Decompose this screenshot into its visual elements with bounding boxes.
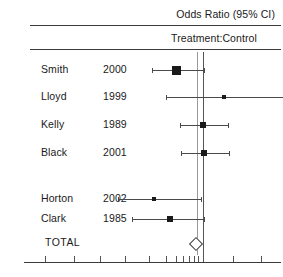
axis-tick bbox=[45, 256, 46, 262]
axis-tick bbox=[74, 256, 75, 262]
axis-tick bbox=[189, 256, 190, 262]
axis-tick bbox=[125, 256, 126, 262]
comparison-subtitle: Treatment:Control bbox=[171, 32, 257, 44]
study-name: Kelly bbox=[41, 118, 64, 130]
study-year: 1985 bbox=[103, 212, 127, 224]
forest-plot: Odds Ratio (95% CI) Treatment:Control Sm… bbox=[0, 0, 283, 277]
study-year: 2002 bbox=[103, 192, 127, 204]
effect-estimate-marker bbox=[172, 66, 181, 75]
axis-tick bbox=[198, 256, 199, 262]
axis-tick bbox=[149, 256, 150, 262]
confidence-interval-line bbox=[118, 199, 201, 200]
effect-estimate-marker bbox=[201, 150, 207, 156]
confidence-interval-cap bbox=[152, 68, 153, 73]
axis-tick bbox=[194, 256, 195, 262]
confidence-interval-cap bbox=[118, 197, 119, 202]
confidence-interval-cap bbox=[166, 95, 167, 100]
study-year: 1989 bbox=[103, 118, 127, 130]
axis-tick bbox=[261, 256, 262, 262]
study-name: Horton bbox=[41, 192, 73, 204]
axis-tick bbox=[100, 256, 101, 262]
axis-tick bbox=[203, 256, 204, 262]
reference-line-null bbox=[203, 52, 204, 262]
confidence-interval-cap bbox=[229, 151, 230, 156]
confidence-interval-cap bbox=[181, 151, 182, 156]
study-name: Smith bbox=[41, 63, 68, 75]
confidence-interval-cap bbox=[204, 68, 205, 73]
confidence-interval-cap bbox=[201, 197, 202, 202]
study-name: Lloyd bbox=[41, 90, 67, 102]
axis-tick bbox=[183, 256, 184, 262]
axis-tick bbox=[176, 256, 177, 262]
study-year: 2000 bbox=[103, 63, 127, 75]
study-name: Clark bbox=[41, 212, 66, 224]
study-year: 2001 bbox=[103, 146, 127, 158]
header-divider-bottom bbox=[30, 49, 281, 50]
confidence-interval-cap bbox=[132, 217, 133, 222]
effect-estimate-marker bbox=[222, 95, 226, 99]
effect-estimate-marker bbox=[167, 216, 173, 222]
study-name: Black bbox=[41, 146, 67, 158]
total-row-label: TOTAL bbox=[45, 236, 80, 248]
effect-estimate-marker bbox=[200, 122, 206, 128]
header-divider-top bbox=[30, 25, 281, 26]
confidence-interval-cap bbox=[228, 123, 229, 128]
axis-tick bbox=[233, 256, 234, 262]
page-title: Odds Ratio (95% CI) bbox=[176, 8, 275, 20]
confidence-interval-cap bbox=[204, 217, 205, 222]
effect-estimate-marker bbox=[152, 197, 156, 201]
x-axis-line bbox=[24, 262, 281, 263]
axis-tick bbox=[166, 256, 167, 262]
summary-diamond-marker bbox=[188, 237, 202, 251]
confidence-interval-cap bbox=[180, 123, 181, 128]
study-year: 1999 bbox=[103, 90, 127, 102]
